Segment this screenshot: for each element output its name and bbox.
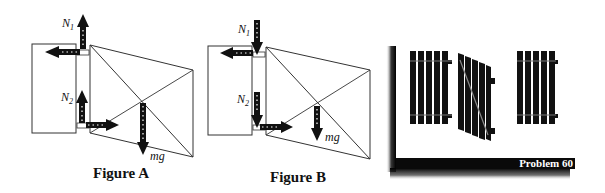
label-weight: mg (325, 130, 340, 144)
force-arrow-n2 (76, 90, 88, 123)
panel-shadow-bottom (390, 168, 570, 180)
label-n1: N1 (61, 16, 74, 32)
gate (266, 47, 370, 159)
wall-post (208, 46, 252, 135)
wall-post (32, 44, 76, 133)
force-arrow-weight (137, 103, 149, 155)
figure-a: N1 N2 mg Figure A (32, 14, 193, 181)
label-weight: mg (150, 149, 165, 163)
force-arrow-top-horizontal (45, 46, 80, 58)
force-arrow-n1 (251, 20, 263, 55)
label-n2: N2 (236, 92, 249, 108)
label-n1: N1 (237, 22, 250, 38)
fence-illustration: Problem 60 (386, 40, 576, 180)
force-arrow-n1 (77, 14, 89, 49)
diagram-canvas: N1 N2 mg Figure A (0, 0, 605, 193)
force-arrow-bottom-horizontal (260, 121, 293, 133)
problem-label: Problem 60 (519, 157, 573, 169)
force-arrow-bottom-horizontal (86, 119, 119, 131)
label-n2: N2 (60, 90, 73, 106)
panel-shadow-left (386, 46, 396, 172)
figure-b-caption: Figure B (270, 169, 326, 185)
force-arrow-weight (311, 106, 323, 141)
hinge-top (253, 52, 265, 57)
force-arrow-top-horizontal (220, 47, 253, 59)
figure-b: N1 N2 mg Figure B (208, 20, 370, 185)
force-arrow-n2 (251, 92, 263, 128)
figure-a-caption: Figure A (93, 165, 149, 181)
